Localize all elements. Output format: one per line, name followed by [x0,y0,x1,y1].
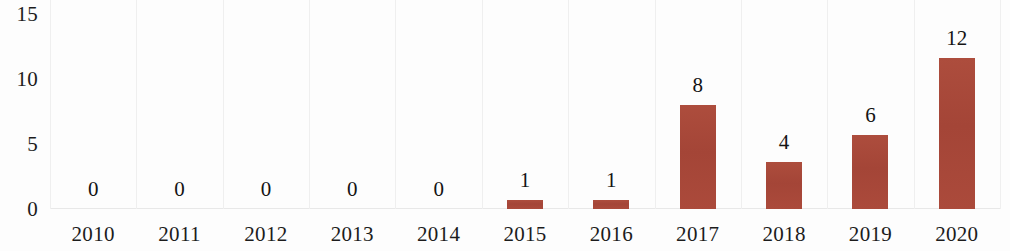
x-tick-label: 2013 [331,224,374,245]
bar[interactable] [593,200,629,209]
bar-value-label: 12 [946,28,967,49]
bar-value-label: 8 [692,75,703,96]
bar-value-label: 0 [433,179,444,200]
bar-value-label: 6 [865,105,876,126]
bar-group: 12 [914,0,1000,209]
x-tick-label: 2019 [849,224,892,245]
bar[interactable] [939,58,975,209]
bar[interactable] [507,200,543,209]
bar-value-label: 0 [261,179,272,200]
y-axis: 051015 [0,0,44,251]
bar-value-label: 4 [779,132,790,153]
bar-group: 4 [741,0,827,209]
plot-area: 000001184612 [50,0,1000,209]
bar-group: 1 [568,0,654,209]
bar-group: 0 [136,0,222,209]
bar-group: 0 [223,0,309,209]
gridline [1000,0,1001,209]
bar-chart: 051015 000001184612 20102011201220132014… [0,0,1010,251]
x-axis: 2010201120122013201420152016201720182019… [50,209,1000,251]
bar-group: 8 [655,0,741,209]
bar-group: 0 [50,0,136,209]
bar-value-label: 1 [606,170,617,191]
bar-group: 0 [309,0,395,209]
bar-value-label: 0 [347,179,358,200]
x-tick-label: 2012 [244,224,287,245]
x-tick-label: 2010 [72,224,115,245]
x-tick-label: 2014 [417,224,460,245]
bar-value-label: 1 [520,170,531,191]
bar-group: 1 [482,0,568,209]
y-tick-label: 0 [27,199,38,220]
x-tick-label: 2017 [676,224,719,245]
bar-value-label: 0 [88,179,99,200]
bar[interactable] [852,135,888,209]
bar-value-label: 0 [174,179,185,200]
bar-group: 6 [827,0,913,209]
bar[interactable] [680,105,716,209]
x-tick-label: 2016 [590,224,633,245]
bar[interactable] [766,162,802,209]
x-tick-label: 2020 [935,224,978,245]
x-tick-label: 2018 [762,224,805,245]
y-tick-label: 10 [17,69,38,90]
x-tick-label: 2011 [158,224,200,245]
x-tick-label: 2015 [503,224,546,245]
y-tick-label: 15 [17,4,38,25]
bar-group: 0 [395,0,481,209]
y-tick-label: 5 [27,134,38,155]
